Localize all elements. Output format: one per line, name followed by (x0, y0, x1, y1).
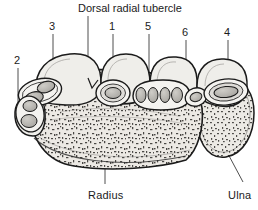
compartment-2-tendon (96, 80, 130, 106)
radius-label: Radius (88, 190, 123, 201)
ulna-label: Ulna (228, 190, 251, 201)
compartment-label-5: 5 (145, 21, 151, 32)
cross-section-drawing (0, 0, 258, 210)
compartment-label-3: 3 (49, 21, 55, 32)
compartment-label-4: 4 (224, 27, 230, 38)
compartment-4-tendons (133, 80, 190, 110)
anatomy-figure: Dorsal radial tubercle 3 1 5 6 4 2 Radiu… (0, 0, 258, 210)
compartment-label-1: 1 (109, 21, 115, 32)
page-title: Dorsal radial tubercle (78, 2, 182, 14)
compartment-label-6: 6 (182, 27, 188, 38)
compartment-label-2: 2 (14, 55, 20, 66)
